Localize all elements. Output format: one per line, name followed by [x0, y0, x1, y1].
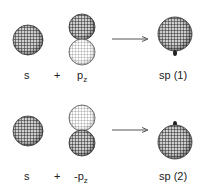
s-orbital-2 — [13, 116, 43, 146]
pz-orbital-1 — [69, 14, 95, 65]
sp2-label: sp (2) — [159, 170, 187, 182]
plus-sign-2: + — [54, 170, 60, 182]
pz-label-1: pz — [77, 69, 87, 81]
orbital-hybridization-diagram — [0, 0, 207, 196]
s-label-1: s — [24, 69, 30, 81]
sp1-hybrid-orbital — [158, 17, 192, 56]
pz-subscript: z — [83, 75, 87, 84]
sp1-label: sp (1) — [159, 69, 187, 81]
pz-subscript: z — [84, 176, 88, 185]
neg-pz-label-2: -pz — [74, 170, 88, 182]
pz-main: p — [78, 170, 84, 182]
s-label-2: s — [24, 170, 30, 182]
s-orbital-1 — [13, 25, 43, 55]
sp2-hybrid-orbital — [158, 121, 192, 159]
neg-pz-orbital-2 — [69, 105, 95, 156]
arrow-2 — [112, 128, 148, 133]
arrow-1 — [112, 37, 148, 42]
plus-sign-1: + — [54, 69, 60, 81]
